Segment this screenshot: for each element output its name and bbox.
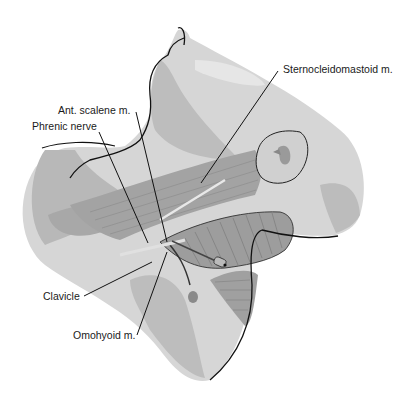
label-clavicle: Clavicle xyxy=(43,291,80,302)
nerve-bulb xyxy=(188,291,198,303)
label-omohyoid: Omohyoid m. xyxy=(73,330,135,341)
label-phrenic-nerve: Phrenic nerve xyxy=(32,121,97,132)
label-ant-scalene: Ant. scalene m. xyxy=(58,105,130,116)
label-sternocleidomastoid: Sternocleidomastoid m. xyxy=(283,64,393,75)
neck-anatomy-illustration xyxy=(0,0,413,399)
